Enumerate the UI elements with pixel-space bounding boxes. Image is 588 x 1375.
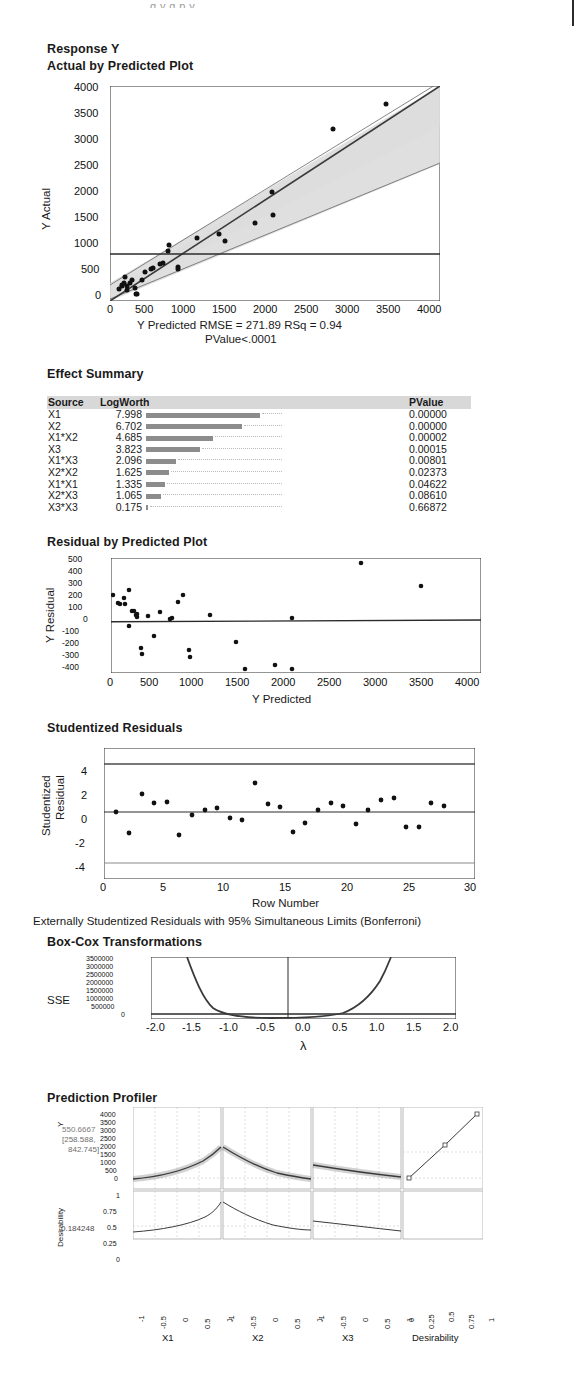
jmp-report-page: g y g p y Response Y Actual by Predicted… — [0, 0, 588, 1375]
profiler-tick-1-2: 0 — [271, 1318, 280, 1322]
rbp-xtick-3500: 3500 — [409, 676, 433, 688]
table-row[interactable]: X3*X30.1750.66872 — [47, 502, 471, 514]
table-row[interactable]: X26.7020.00000 — [47, 421, 471, 433]
profiler-tick-2-3: 0.5 — [383, 1319, 392, 1329]
abp-ytick-2000: 2000 — [74, 185, 98, 197]
profiler-ytick-2500: 2500 — [100, 1135, 116, 1142]
rbp-xtick-4000: 4000 — [455, 676, 479, 688]
actual-by-predicted-plot[interactable] — [110, 86, 440, 301]
profiler-tick-1-0: -1 — [227, 1315, 236, 1322]
abp-xtick-1000: 1000 — [171, 303, 195, 315]
effect-source: X1 — [47, 409, 100, 421]
effect-logworth-bar — [142, 455, 409, 467]
boxcox-xtick-m1: -1.0 — [219, 1021, 238, 1033]
abp-ytick-2500: 2500 — [74, 159, 98, 171]
boxcox-xtick-05: 0.5 — [332, 1021, 347, 1033]
response-title: Response Y — [47, 42, 119, 56]
profiler-desirability-axis-label: Desirability — [412, 1332, 458, 1343]
boxcox-xtick-2: 2.0 — [443, 1021, 458, 1033]
effect-logworth: 1.065 — [100, 490, 142, 502]
rbp-y-axis-label: Y Residual — [44, 588, 56, 643]
table-row[interactable]: X1*X24.6850.00002 — [47, 432, 471, 444]
abp-xtick-0: 0 — [107, 303, 113, 315]
profiler-y-ci-lower: [258.588, — [62, 1135, 95, 1144]
profiler-tick-0-2: 0 — [181, 1318, 190, 1322]
rbp-xtick-2000: 2000 — [271, 676, 295, 688]
rbp-xtick-0: 0 — [107, 676, 113, 688]
abp-ytick-4000: 4000 — [74, 81, 98, 93]
effect-logworth: 0.175 — [100, 502, 142, 514]
profiler-tick-0-3: 0.5 — [203, 1319, 212, 1329]
effect-logworth-bar — [142, 421, 409, 433]
table-row[interactable]: X2*X21.6250.02373 — [47, 467, 471, 479]
stud-ytick-m2: -2 — [75, 837, 85, 849]
table-row[interactable]: X17.9980.00000 — [47, 409, 471, 421]
profiler-ytick-4000: 4000 — [100, 1111, 116, 1118]
profiler-dtick-025: 0.25 — [103, 1240, 117, 1247]
effect-logworth-bar — [142, 479, 409, 491]
rbp-x-axis-label: Y Predicted — [252, 693, 311, 705]
abp-ytick-1500: 1500 — [74, 211, 98, 223]
profiler-ytick-1000: 1000 — [100, 1159, 116, 1166]
abp-y-axis-label: Y Actual — [40, 188, 52, 230]
boxcox-ytick-500000: 500000 — [91, 1003, 114, 1010]
column-header-logworth: LogWorth — [100, 396, 409, 409]
rbp-ytick-500: 500 — [68, 554, 82, 564]
abp-ytick-3500: 3500 — [74, 107, 98, 119]
residual-by-predicted-plot[interactable] — [111, 558, 481, 673]
abp-ytick-1000: 1000 — [74, 237, 98, 249]
abp-xtick-2000: 2000 — [253, 303, 277, 315]
profiler-ytick-0: 0 — [114, 1175, 118, 1182]
profiler-tick-2-1: -0.5 — [339, 1316, 348, 1329]
rbp-xtick-500: 500 — [140, 676, 158, 688]
profiler-tick-0-0: -1 — [137, 1315, 146, 1322]
box-cox-plot[interactable] — [151, 957, 456, 1019]
effect-summary-table[interactable]: Source LogWorth PValue X17.9980.00000X26… — [47, 396, 471, 513]
rbp-xtick-3000: 3000 — [363, 676, 387, 688]
abp-caption-pvalue: PValue<.0001 — [205, 333, 277, 345]
profiler-y-value[interactable]: 550.6667 — [62, 1125, 95, 1134]
abp-xtick-1500: 1500 — [212, 303, 236, 315]
effect-logworth-bar — [142, 490, 409, 502]
profiler-dtick-0: 0 — [116, 1256, 120, 1263]
abp-ytick-0: 0 — [95, 289, 101, 301]
profiler-ytick-3500: 3500 — [100, 1119, 116, 1126]
rbp-ytick-m200: -200 — [62, 638, 79, 648]
effect-source: X2*X2 — [47, 467, 100, 479]
boxcox-xtick-m05: -0.5 — [256, 1021, 275, 1033]
stud-ytick-2: 2 — [81, 789, 87, 801]
stud-ytick-0: 0 — [81, 813, 87, 825]
boxcox-ytick-1000000: 1000000 — [86, 995, 113, 1002]
boxcox-xtick-1: 1.0 — [369, 1021, 384, 1033]
effect-pvalue: 0.66872 — [409, 502, 471, 514]
studentized-residuals-plot[interactable] — [104, 748, 475, 879]
boxcox-ytick-0: 0 — [121, 1011, 125, 1018]
profiler-ytick-3000: 3000 — [100, 1127, 116, 1134]
boxcox-xtick-m2: -2.0 — [146, 1021, 165, 1033]
profiler-ytick-500: 500 — [105, 1167, 117, 1174]
abp-ytick-500: 500 — [81, 263, 99, 275]
profiler-desirability-value[interactable]: 0.184248 — [61, 1224, 94, 1233]
table-row[interactable]: X33.8230.00015 — [47, 444, 471, 456]
effect-logworth-bar — [142, 409, 409, 421]
abp-xtick-3500: 3500 — [376, 303, 400, 315]
profiler-y-ci-upper: 842.745] — [68, 1145, 99, 1154]
table-row[interactable]: X2*X31.0650.08610 — [47, 490, 471, 502]
abp-xtick-4000: 4000 — [417, 303, 441, 315]
table-row[interactable]: X1*X11.3350.04622 — [47, 479, 471, 491]
profiler-ytick-2000: 2000 — [100, 1143, 116, 1150]
profiler-ytick-1500: 1500 — [100, 1151, 116, 1158]
rbp-xtick-2500: 2500 — [317, 676, 341, 688]
abp-xtick-3000: 3000 — [335, 303, 359, 315]
rbp-ytick-200: 200 — [68, 590, 82, 600]
bonferroni-footnote: Externally Studentized Residuals with 95… — [33, 915, 421, 927]
effect-summary-rows: X17.9980.00000X26.7020.00000X1*X24.6850.… — [47, 409, 471, 513]
profiler-factor-label-x1: X1 — [162, 1332, 174, 1343]
effect-logworth-bar — [142, 502, 409, 514]
stud-xtick-30: 30 — [464, 881, 476, 893]
boxcox-y-axis-label: SSE — [47, 994, 70, 1006]
prediction-profiler-grid[interactable] — [133, 1107, 483, 1267]
section-title-prediction-profiler: Prediction Profiler — [47, 1091, 157, 1105]
profiler-tick-1-1: -0.5 — [249, 1316, 258, 1329]
table-row[interactable]: X1*X32.0960.00801 — [47, 455, 471, 467]
